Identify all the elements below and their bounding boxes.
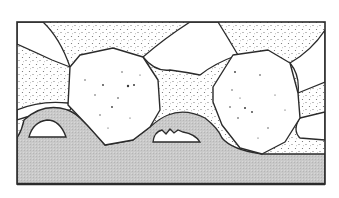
cross-section-diagram: [0, 0, 339, 198]
